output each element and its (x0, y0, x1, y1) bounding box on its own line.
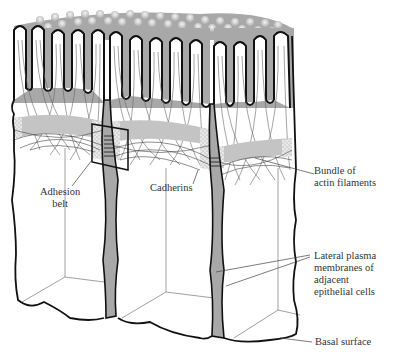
label-basal-surface: Basal surface (315, 336, 371, 348)
label-actin-bundle-line2: actin filaments (314, 177, 376, 189)
label-basal-surface-text: Basal surface (315, 336, 371, 348)
label-adhesion-belt: Adhesion belt (40, 186, 80, 210)
label-lateral-line4: epithelial cells (314, 286, 376, 298)
label-lateral-line1: Lateral plasma (314, 250, 376, 262)
label-cadherins: Cadherins (150, 182, 193, 194)
label-lateral-line2: membranes of (314, 262, 376, 274)
label-actin-bundle-line1: Bundle of (314, 165, 376, 177)
label-lateral-line3: adjacent (314, 274, 376, 286)
adhesion-belt-bands (14, 115, 292, 170)
label-actin-bundle: Bundle of actin filaments (314, 165, 376, 189)
label-adhesion-belt-line2: belt (40, 198, 80, 210)
label-lateral-membranes: Lateral plasma membranes of adjacent epi… (314, 250, 376, 298)
cell-edges (22, 148, 300, 338)
label-cadherins-text: Cadherins (150, 182, 193, 194)
label-adhesion-belt-line1: Adhesion (40, 186, 80, 198)
